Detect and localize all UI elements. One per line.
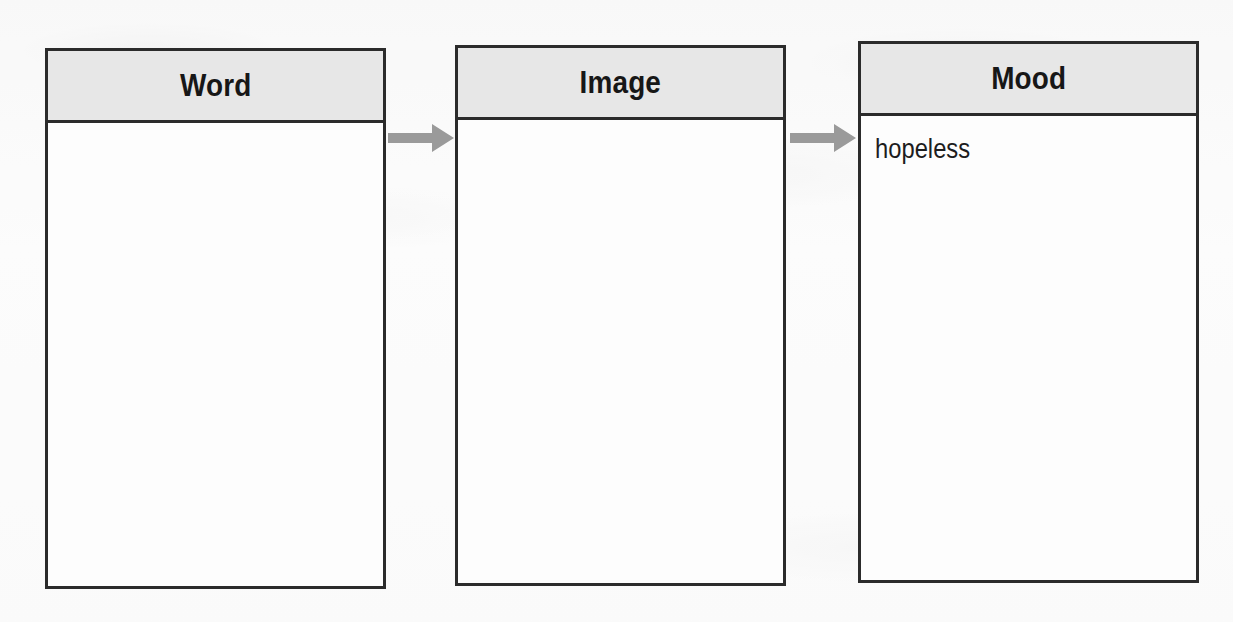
node-image[interactable]: Image <box>455 45 786 586</box>
connector-word-to-image <box>388 120 456 156</box>
node-mood-body: hopeless <box>861 116 1196 580</box>
node-image-title: Image <box>580 65 662 101</box>
flow-diagram: Word Image Mood hopeless <box>0 0 1233 622</box>
node-word[interactable]: Word <box>45 48 386 589</box>
connector-image-to-mood <box>790 120 858 156</box>
node-mood[interactable]: Mood hopeless <box>858 41 1199 583</box>
node-image-body <box>458 120 783 583</box>
node-word-title: Word <box>180 68 251 104</box>
right-arrow-icon <box>790 120 858 156</box>
node-mood-entry: hopeless <box>875 134 1157 165</box>
node-mood-header: Mood <box>861 44 1196 116</box>
node-image-header: Image <box>458 48 783 120</box>
right-arrow-icon <box>388 120 456 156</box>
node-word-header: Word <box>48 51 383 123</box>
node-mood-title: Mood <box>991 61 1066 97</box>
node-word-body <box>48 123 383 586</box>
